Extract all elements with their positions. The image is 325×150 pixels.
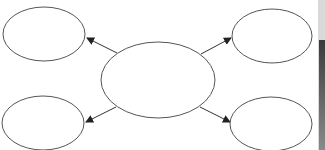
arrow-center-to-top-right (201, 38, 231, 54)
node-center (101, 42, 215, 118)
node-top-left (3, 7, 85, 61)
node-bottom-right (230, 97, 312, 150)
arrow-center-to-bottom-left (86, 107, 116, 122)
node-bottom-left (2, 96, 84, 150)
node-top-right (232, 9, 312, 63)
arrow-center-to-top-left (87, 38, 117, 53)
diagram-canvas (0, 0, 325, 150)
arrow-center-to-bottom-right (200, 107, 230, 122)
hub-spoke-diagram (0, 0, 325, 150)
page-edge-shadow (319, 40, 325, 150)
